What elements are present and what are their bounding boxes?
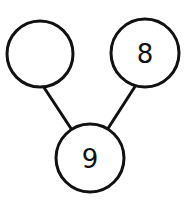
whole-circle: 9: [56, 124, 124, 192]
number-bond-diagram: 8 9: [0, 0, 188, 202]
part-circle-left: [7, 21, 73, 87]
part-value-right: 8: [137, 39, 154, 69]
whole-value: 9: [82, 144, 99, 174]
connector-line-left: [43, 86, 72, 130]
number-bond-svg: 8 9: [0, 0, 188, 202]
connector-line-right: [107, 85, 136, 130]
part-circle-right: 8: [111, 19, 179, 87]
